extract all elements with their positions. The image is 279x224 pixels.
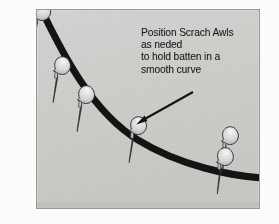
annotation-text-block: Position Scrach Awls as neded to hold ba… xyxy=(141,27,263,76)
annotation-line-4: smooth curve xyxy=(141,64,263,76)
annotation-line-2: as neded xyxy=(141,39,263,51)
figure-root: Position Scrach Awls as neded to hold ba… xyxy=(0,0,279,224)
annotation-line-1: Position Scrach Awls xyxy=(141,27,263,39)
annotation-line-3: to hold batten in a xyxy=(141,51,263,63)
